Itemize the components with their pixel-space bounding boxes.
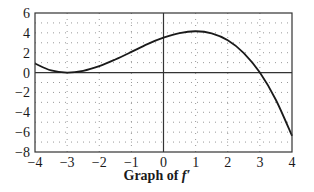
y-tick-label: 2 [23, 46, 30, 61]
y-tick-label: 0 [23, 66, 30, 81]
chart-title-function: f′ [182, 168, 191, 183]
y-tick-label: −2 [15, 85, 30, 100]
y-tick-label: 4 [23, 26, 30, 41]
chart-svg: −4−3−2−101234 6420−2−4−6−8 [0, 0, 314, 192]
chart-title-text: Graph of [124, 168, 182, 183]
axes [35, 13, 292, 152]
y-tick-labels: 6420−2−4−6−8 [15, 6, 30, 160]
y-tick-label: −6 [15, 125, 30, 140]
y-tick-label: 6 [23, 6, 30, 21]
chart-title: Graph of f′ [0, 168, 314, 184]
y-tick-label: −4 [15, 105, 30, 120]
y-tick-label: −8 [15, 145, 30, 160]
